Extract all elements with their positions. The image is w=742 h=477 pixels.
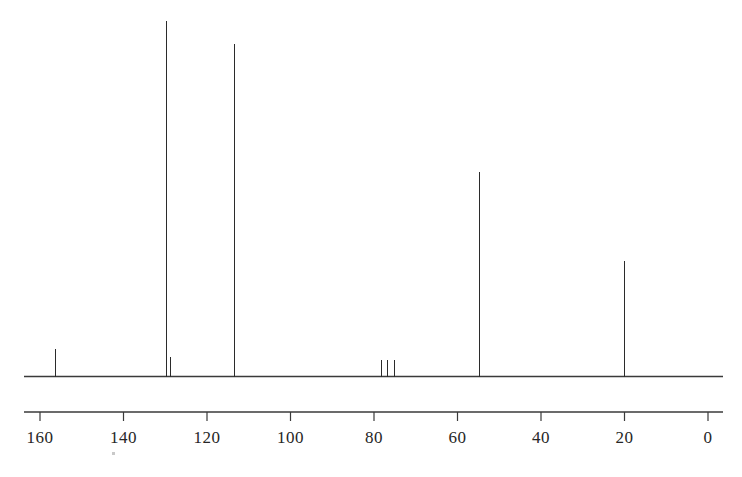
ppm-axis-ticks — [40, 412, 708, 421]
axis-tick-label: 40 — [532, 428, 550, 447]
axis-tick-label: 80 — [365, 428, 383, 447]
scan-speck — [112, 452, 115, 455]
axis-tick-label: 160 — [27, 428, 54, 447]
spectrum-canvas: 160140120100806040200 — [0, 0, 742, 477]
axis-tick-label: 120 — [194, 428, 221, 447]
nmr-spectrum-figure: 160140120100806040200 — [0, 0, 742, 477]
axis-tick-label: 0 — [704, 428, 713, 447]
spectrum-trace-group — [24, 21, 723, 377]
ppm-axis-tick-labels: 160140120100806040200 — [27, 428, 713, 447]
axis-tick-label: 60 — [449, 428, 467, 447]
axis-tick-label: 140 — [110, 428, 137, 447]
axis-tick-label: 100 — [277, 428, 304, 447]
peak-lines-group — [55, 21, 624, 377]
ppm-axis-group: 160140120100806040200 — [24, 412, 723, 447]
axis-tick-label: 20 — [616, 428, 634, 447]
